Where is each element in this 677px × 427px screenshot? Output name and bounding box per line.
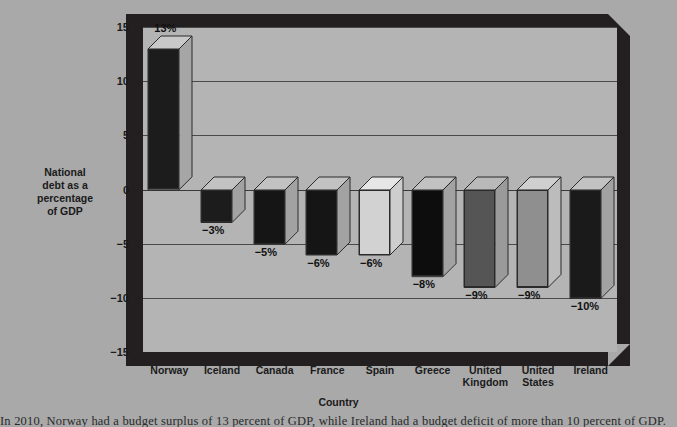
bar-side-face <box>390 177 403 255</box>
bar-value-label: −8% <box>413 278 435 290</box>
y-axis-title: Nationaldebt as apercentageof GDP <box>24 166 106 218</box>
bar-front-face <box>201 190 232 223</box>
x-axis-tick-label: UnitedKingdom <box>455 364 516 388</box>
bar-front-face <box>412 190 443 277</box>
bar-front-face <box>148 49 179 190</box>
bar-side-face <box>337 177 350 255</box>
x-axis-tick-line: United <box>508 364 569 376</box>
bar-front-face <box>570 190 601 298</box>
x-axis-tick-line: Norway <box>139 364 200 376</box>
bar-front-face <box>254 190 285 244</box>
x-axis-tick-line: States <box>508 376 569 388</box>
bar-side-face <box>443 177 456 277</box>
y-axis-tick-label: −10 <box>95 293 129 304</box>
bar-side-face <box>548 177 561 288</box>
y-axis-title-line: National <box>24 166 106 179</box>
bar-value-label: −9% <box>465 289 487 301</box>
x-axis-tick-label: Canada <box>244 364 305 376</box>
bar-value-label: −3% <box>202 224 224 236</box>
y-axis-tick-label: −15 <box>95 347 129 358</box>
plot-area <box>143 27 617 352</box>
bar-value-label: −10% <box>571 300 599 312</box>
y-axis-title-line: percentage <box>24 192 106 205</box>
x-axis-title: Country <box>0 396 677 408</box>
bar-value-label: −5% <box>255 246 277 258</box>
x-axis-tick-line: Ireland <box>560 364 621 376</box>
bar-side-face <box>179 36 192 190</box>
figure-canvas: 151050−5−10−15 Nationaldebt as apercenta… <box>0 0 677 427</box>
bar-side-face <box>495 177 508 288</box>
y-axis-tick-label: 5 <box>95 130 129 141</box>
bar-front-face <box>464 190 495 288</box>
x-axis-tick-line: Iceland <box>192 364 253 376</box>
gridline <box>143 27 617 28</box>
gridline <box>143 81 617 82</box>
y-axis-tick-label: 15 <box>95 22 129 33</box>
x-axis-tick-label: Norway <box>139 364 200 376</box>
x-axis-tick-line: Greece <box>402 364 463 376</box>
x-axis-tick-label: Ireland <box>560 364 621 376</box>
gridline <box>143 298 617 299</box>
y-axis-tick-label: −5 <box>95 239 129 250</box>
x-axis-tick-label: Iceland <box>192 364 253 376</box>
bar-value-label: −6% <box>360 257 382 269</box>
x-axis-tick-line: United <box>455 364 516 376</box>
x-axis-tick-label: France <box>297 364 358 376</box>
bar-value-label: −9% <box>518 289 540 301</box>
caption-text: In 2010, Norway had a budget surplus of … <box>0 414 677 427</box>
gridline <box>143 135 617 136</box>
x-axis-tick-label: Spain <box>350 364 411 376</box>
x-axis-tick-line: Spain <box>350 364 411 376</box>
x-axis-tick-line: Canada <box>244 364 305 376</box>
x-axis-tick-line: Kingdom <box>455 376 516 388</box>
y-axis-title-line: debt as a <box>24 179 106 192</box>
x-axis-tick-label: Greece <box>402 364 463 376</box>
bar-front-face <box>517 190 548 288</box>
bar-front-face <box>306 190 337 255</box>
bar-side-face <box>601 177 614 298</box>
bar-value-label: −6% <box>307 257 329 269</box>
y-axis-tick-label: 10 <box>95 76 129 87</box>
bar-front-face <box>359 190 390 255</box>
x-axis-tick-label: UnitedStates <box>508 364 569 388</box>
x-axis-tick-line: France <box>297 364 358 376</box>
y-axis-title-line: of GDP <box>24 205 106 218</box>
bar-value-label: 13% <box>154 22 176 34</box>
